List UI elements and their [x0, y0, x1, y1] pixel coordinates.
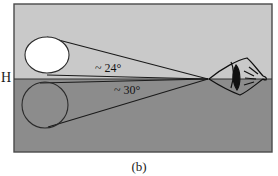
ground-region [14, 79, 272, 152]
figure-caption: (b) [0, 160, 278, 173]
figure-root: H ~ 24° ~ 30° (b) [0, 0, 278, 176]
elevated-moon [25, 37, 69, 73]
horizon-label: H [1, 71, 11, 85]
upper-angle-label: ~ 24° [95, 62, 121, 74]
lower-angle-label: ~ 30° [114, 84, 140, 96]
